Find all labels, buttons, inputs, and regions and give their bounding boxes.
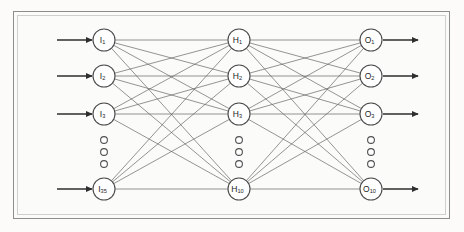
ellipsis-dot-hidden-3 — [236, 161, 243, 168]
ellipsis-dot-input-2 — [101, 149, 108, 156]
network-graph: I1I2I3I35H1H2H3H10O1O2O3O10 — [0, 0, 464, 232]
ellipsis-dot-input-1 — [101, 137, 108, 144]
nodes-group: I1I2I3I35H1H2H3H10O1O2O3O10 — [93, 29, 382, 200]
ellipsis-dot-hidden-1 — [236, 137, 243, 144]
ellipsis-dot-output-1 — [368, 137, 375, 144]
ellipsis-dot-output-3 — [368, 161, 375, 168]
neural-network-figure: I1I2I3I35H1H2H3H10O1O2O3O10 — [0, 0, 464, 232]
ellipsis-dot-input-3 — [101, 161, 108, 168]
ellipsis-dot-output-2 — [368, 149, 375, 156]
ellipsis-dot-hidden-2 — [236, 149, 243, 156]
